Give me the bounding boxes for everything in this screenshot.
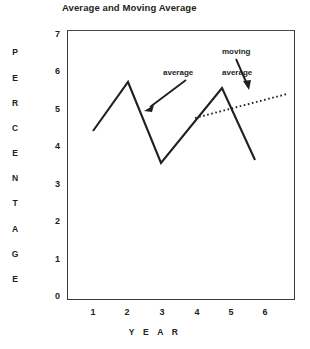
y-tick-label: 7 [38, 30, 60, 39]
y-tick-label: 5 [38, 105, 60, 114]
x-tick-label: 3 [152, 308, 172, 317]
y-axis-label-char: R [12, 90, 18, 115]
moving-average-annotation-line1: moving [222, 47, 252, 58]
y-tick-label: 0 [38, 292, 60, 301]
x-tick-label: 6 [255, 308, 275, 317]
y-axis-label-char: E [12, 267, 18, 292]
x-axis-label: Y E A R [0, 327, 310, 337]
y-tick-label: 2 [38, 217, 60, 226]
moving-average-annotation-line2: average [222, 68, 252, 79]
x-tick-label: 2 [117, 308, 137, 317]
chart-title: Average and Moving Average [62, 2, 197, 13]
y-tick-label: 6 [38, 67, 60, 76]
y-axis-label-char: E [12, 65, 18, 90]
y-axis-label-char: A [12, 216, 18, 241]
y-axis-label-char: T [12, 191, 17, 216]
y-axis-label-char: C [12, 116, 18, 141]
x-tick-label: 4 [187, 308, 207, 317]
y-axis-label-char: G [12, 242, 19, 267]
y-axis-label-char: P [12, 40, 18, 65]
x-tick-label: 5 [221, 308, 241, 317]
moving-average-annotation-label: moving average [222, 36, 252, 89]
y-axis-label-char: N [12, 166, 18, 191]
average-annotation-label: average [163, 68, 193, 79]
y-axis-label-char: E [12, 141, 18, 166]
x-tick-label: 1 [83, 308, 103, 317]
y-tick-label: 3 [38, 180, 60, 189]
chart-figure: Average and Moving Average P E R C E N T… [0, 0, 310, 349]
y-tick-label: 1 [38, 255, 60, 264]
y-tick-label: 4 [38, 142, 60, 151]
y-axis-label: P E R C E N T A G E [8, 40, 22, 292]
